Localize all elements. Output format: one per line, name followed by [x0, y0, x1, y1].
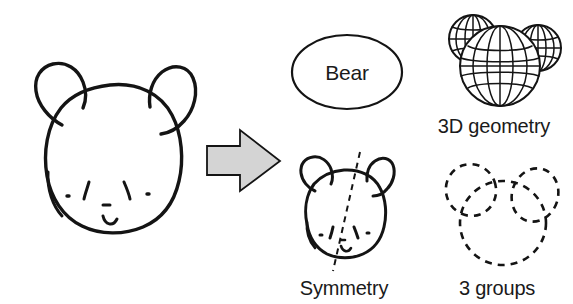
grouping-group: 3 groups	[439, 157, 566, 299]
bear-ellipse-label: Bear	[325, 61, 369, 84]
bear-head-outline	[46, 85, 182, 233]
diagram-canvas: Bear	[0, 0, 573, 304]
bear-right-ear	[150, 67, 196, 134]
group-left-ear-ellipse	[439, 157, 504, 223]
semantic-label-group: Bear	[292, 35, 402, 109]
symmetry-bear-head	[306, 170, 386, 258]
geometry-group: 3D geometry	[438, 15, 561, 137]
figure-svg: Bear	[0, 0, 573, 304]
geometry-head-sphere	[460, 26, 540, 106]
symmetry-caption: Symmetry	[300, 277, 389, 299]
group-head-ellipse	[460, 181, 546, 265]
transformation-arrow-icon	[207, 130, 280, 191]
bear-mouth	[103, 216, 117, 224]
symmetry-group: Symmetry	[300, 152, 394, 299]
source-bear-sketch	[36, 63, 196, 233]
symmetry-bear-left-eye	[330, 227, 333, 238]
symmetry-bear-mouth	[341, 246, 351, 251]
bear-left-eye	[84, 182, 89, 199]
groups-caption: 3 groups	[459, 277, 535, 299]
geometry-caption: 3D geometry	[438, 115, 550, 137]
symmetry-bear-right-eye	[354, 227, 358, 238]
bear-right-eye	[124, 182, 130, 199]
